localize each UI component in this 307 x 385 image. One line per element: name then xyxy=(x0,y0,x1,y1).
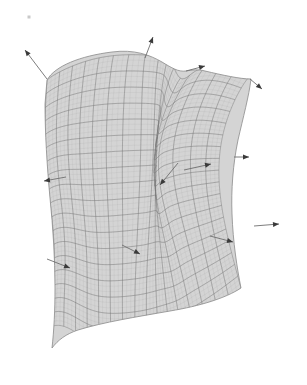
surface-mesh-figure xyxy=(0,0,307,385)
corner-speck-mark xyxy=(28,16,31,19)
figure-canvas xyxy=(0,0,307,385)
